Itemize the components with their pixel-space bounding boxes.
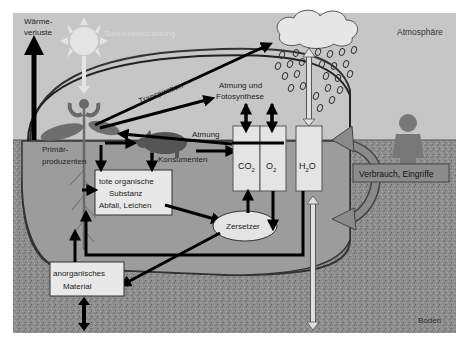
solar-radiation-label: Sonneneinstrahlung — [104, 29, 175, 38]
svg-text:Substanz: Substanz — [109, 189, 142, 198]
atmosphere-label: Atmosphäre — [397, 27, 443, 37]
human-use-label: Verbrauch, Eingriffe — [359, 169, 434, 179]
consumers-label: Konsumenten — [158, 155, 207, 164]
producers-label-2: produzenten — [42, 157, 86, 166]
svg-text:tote organische: tote organische — [99, 177, 154, 186]
producers-label-1: Primär- — [42, 145, 69, 154]
dead-organic-matter-box: tote organische Substanz Abfall, Leichen — [95, 170, 172, 215]
co2-box: CO2 — [233, 126, 260, 191]
h2o-box: H2O — [296, 126, 322, 191]
svg-text:Abfall, Leichen: Abfall, Leichen — [99, 201, 151, 210]
heat-loss-label-2: verluste — [24, 28, 53, 37]
soil-label: Boden — [418, 316, 441, 325]
svg-text:anorganisches: anorganisches — [53, 269, 105, 278]
respiration-label: Atmung — [192, 130, 220, 139]
respiration-photosynthesis-label-1: Atmung und — [219, 81, 262, 90]
svg-text:Material: Material — [63, 282, 92, 291]
decomposers-label: Zersetzer — [226, 222, 260, 231]
ecosystem-diagram: Atmosphäre Boden Wärme- verluste Sonnene… — [0, 0, 465, 345]
heat-loss-label-1: Wärme- — [24, 17, 53, 26]
inorganic-material-box: anorganisches Material — [50, 262, 124, 296]
o2-box: O2 — [260, 126, 286, 191]
respiration-photosynthesis-label-2: Fotosynthese — [216, 92, 265, 101]
